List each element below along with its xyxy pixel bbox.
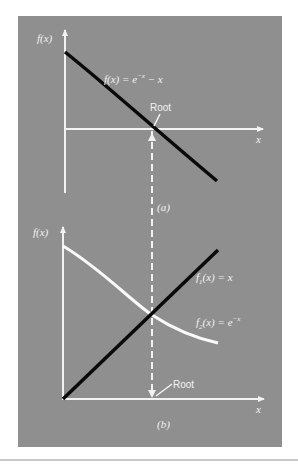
y-label-b: f(x) — [33, 226, 49, 239]
curve-f2 — [63, 246, 218, 343]
x-label-b: x — [255, 403, 261, 415]
f1-label: f1(x) = x — [196, 271, 233, 286]
root-pointer-a — [154, 114, 160, 126]
root-arrowhead-down — [148, 390, 156, 398]
root-pointer-b — [156, 384, 172, 396]
chart-b: f(x) x f1(x) = x f2(x) = e−x Root (b) — [33, 226, 264, 431]
chart-a: f(x) x f(x) = e−x − x Root (a) — [37, 30, 263, 214]
caption-b: (b) — [157, 418, 170, 431]
line-f1 — [63, 250, 218, 399]
figure-svg: f(x) x f(x) = e−x − x Root (a) f(x) x f1… — [0, 0, 298, 465]
caption-a: (a) — [157, 201, 170, 214]
f2-label: f2(x) = e−x — [196, 315, 241, 331]
function-label-a: f(x) = e−x − x — [104, 72, 163, 86]
root-arrowhead-up — [148, 133, 156, 141]
root-label-b: Root — [173, 379, 194, 390]
root-label-a: Root — [150, 102, 171, 113]
y-label-a: f(x) — [37, 32, 53, 45]
x-label-a: x — [255, 133, 261, 145]
